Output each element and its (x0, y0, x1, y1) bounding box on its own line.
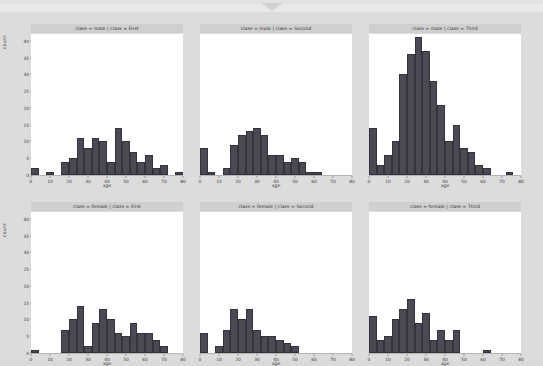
x-tick-mark (107, 354, 108, 356)
facet-panel-male-Second (200, 34, 352, 175)
histogram-bar (407, 299, 415, 353)
histogram-bar (99, 309, 107, 353)
x-axis-label-male-First: age (31, 183, 183, 188)
x-tick-mark (238, 354, 239, 356)
y-tick-label: 0 (26, 351, 29, 356)
histogram-bar (468, 152, 476, 176)
histogram-bar (115, 333, 123, 353)
histogram-bar (69, 158, 77, 175)
histogram-bar (61, 162, 69, 175)
histogram-bar (284, 343, 292, 353)
histogram-bar (291, 158, 299, 175)
y-tick-label: 35 (23, 55, 29, 60)
x-axis-label-female-Second: age (200, 361, 352, 366)
facet-strip-female-Second: class = female | class = Second (200, 202, 352, 211)
histogram-bar (31, 168, 39, 175)
histogram-bar (483, 350, 491, 353)
x-tick-mark (483, 354, 484, 356)
x-tick-mark (276, 354, 277, 356)
x-tick-mark (333, 354, 334, 356)
x-tick-mark (521, 176, 522, 178)
histogram-bar (430, 81, 438, 175)
y-tick-label: 40 (23, 38, 29, 43)
y-tick-label: 5 (26, 156, 29, 161)
plot-area-female-Second (200, 212, 352, 353)
x-tick-mark (483, 176, 484, 178)
facet-strip-female-First: class = female | class = First (31, 202, 183, 211)
histogram-bar (369, 316, 377, 353)
x-tick-mark (388, 354, 389, 356)
y-tick-label: 25 (23, 89, 29, 94)
histogram-bar (107, 162, 115, 175)
histogram-bar (415, 323, 423, 353)
histogram-bar (399, 74, 407, 175)
histogram-bar (145, 333, 153, 353)
histogram-bar (430, 340, 438, 353)
histogram-bar (246, 309, 254, 353)
histogram-bar (299, 162, 307, 175)
x-tick-mark (238, 176, 239, 178)
x-tick-mark (521, 354, 522, 356)
x-tick-mark (407, 176, 408, 178)
plot-area-female-Third (369, 212, 521, 353)
histogram-bar (384, 336, 392, 353)
x-tick-mark (88, 176, 89, 178)
x-tick-mark (145, 354, 146, 356)
x-tick-mark (445, 354, 446, 356)
y-tick-label: 0 (26, 173, 29, 178)
plot-area-male-Second (200, 34, 352, 175)
histogram-bar (46, 172, 54, 175)
x-tick-mark (426, 354, 427, 356)
facet-strip-male-First: class = male | class = First (31, 24, 183, 33)
histogram-bar (122, 336, 130, 353)
y-tick-label: 30 (23, 72, 29, 77)
x-tick-mark (257, 176, 258, 178)
histogram-bar (306, 172, 314, 175)
x-tick-mark (50, 354, 51, 356)
x-tick-mark (164, 176, 165, 178)
histogram-bar (215, 346, 223, 353)
histogram-bar (445, 141, 453, 175)
histogram-bar (399, 309, 407, 353)
histogram-bar (506, 172, 514, 175)
x-tick-mark (183, 354, 184, 356)
histogram-bar (238, 135, 246, 175)
histogram-bar (230, 145, 238, 175)
y-tick-label: 20 (23, 283, 29, 288)
histogram-bar (137, 333, 145, 353)
y-tick-label: 30 (23, 250, 29, 255)
histogram-bar (445, 340, 453, 353)
x-tick-mark (31, 354, 32, 356)
histogram-bar (475, 165, 483, 175)
y-tick-label: 15 (23, 300, 29, 305)
histogram-bar (84, 148, 92, 175)
x-tick-mark (257, 354, 258, 356)
x-tick-mark (314, 176, 315, 178)
histogram-bar (130, 323, 138, 353)
x-tick-mark (69, 354, 70, 356)
histogram-bar (137, 162, 145, 175)
x-tick-mark (50, 176, 51, 178)
histogram-bar (453, 125, 461, 175)
facet-strip-male-Third: class = male | class = Third (369, 24, 521, 33)
histogram-bar (392, 319, 400, 353)
histogram-bar (392, 141, 400, 175)
facet-panel-male-Third (369, 34, 521, 175)
x-tick-mark (388, 176, 389, 178)
histogram-bar (246, 131, 254, 175)
histogram-bar (422, 313, 430, 353)
x-tick-mark (464, 354, 465, 356)
histogram-bar (77, 138, 85, 175)
x-tick-mark (314, 354, 315, 356)
histogram-bar (437, 330, 445, 354)
y-tick-label: 35 (23, 233, 29, 238)
histogram-bar (175, 172, 183, 175)
histogram-bar (238, 319, 246, 353)
histogram-bar (107, 319, 115, 353)
y-axis-ticks-row1: 0510152025303540 (13, 34, 29, 175)
histogram-bar (115, 128, 123, 175)
y-tick-label: 10 (23, 139, 29, 144)
histogram-bar (253, 128, 261, 175)
x-axis-label-male-Second: age (200, 183, 352, 188)
